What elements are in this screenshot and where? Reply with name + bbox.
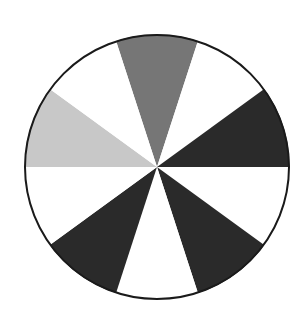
figure-canvas — [0, 0, 307, 330]
sector-wheel-chart — [0, 0, 307, 330]
